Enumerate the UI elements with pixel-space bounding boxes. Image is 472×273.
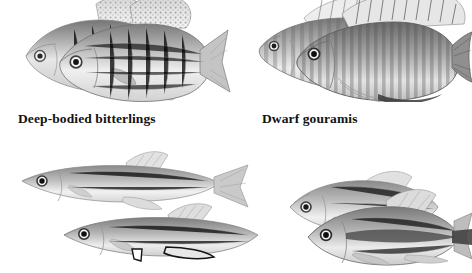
bitterling-front	[60, 0, 230, 102]
caption-deep-bodied-bitterlings: Deep-bodied bitterlings	[18, 111, 156, 127]
slender-fish-upper	[22, 152, 248, 210]
illustration-plate: Deep-bodied bitterlings Dwarf gouramis	[0, 0, 472, 273]
fish-group-slender-minnows	[8, 143, 258, 273]
slender-fish-lower	[64, 204, 258, 261]
caption-dwarf-gouramis: Dwarf gouramis	[262, 111, 358, 127]
fish-group-deep-bodied-bitterlings	[4, 0, 242, 102]
fish-group-dwarf-gouramis	[246, 0, 472, 102]
fish-group-striped-tetras	[280, 163, 472, 273]
